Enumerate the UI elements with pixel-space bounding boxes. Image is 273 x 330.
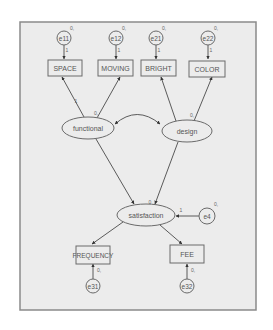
path-label: 0, (191, 267, 195, 273)
path-label: 1 (180, 207, 183, 213)
error-label: e12 (111, 35, 122, 42)
observed-color[interactable]: COLOR (189, 61, 225, 77)
path-label: 1 (210, 47, 213, 53)
observed-space[interactable]: SPACE (48, 60, 82, 76)
variance-label: 0, (214, 201, 218, 207)
latent-label: satisfaction (128, 212, 163, 219)
latent-label: functional (73, 125, 103, 132)
observed-label: BRIGHT (145, 65, 172, 72)
observed-label: FEE (180, 251, 194, 258)
path-label: 1 (66, 47, 69, 53)
variance-label: 0, (162, 25, 166, 31)
sem-path-diagram: e11 0, 1 e12 0, 1 e21 0, 1 e22 0, 1 SPAC… (0, 0, 273, 330)
error-label: e11 (59, 35, 70, 42)
observed-label: MOVING (101, 65, 129, 72)
error-label: e31 (88, 283, 99, 290)
latent-intercept-label: 0 (149, 199, 152, 205)
path-label: 1 (118, 47, 121, 53)
path-label-functional-space: 1 (75, 98, 78, 104)
observed-label: FREQUENCY (73, 252, 114, 260)
observed-moving[interactable]: MOVING (98, 60, 133, 76)
variance-label: 0, (122, 25, 126, 31)
latent-label: design (177, 128, 198, 136)
variance-label: 0, (70, 25, 74, 31)
error-label: e22 (203, 35, 214, 42)
observed-fee[interactable]: FEE (170, 245, 204, 263)
observed-label: COLOR (195, 66, 220, 73)
observed-bright[interactable]: BRIGHT (141, 60, 176, 76)
variance-label: 0, (214, 25, 218, 31)
error-label: e21 (151, 35, 162, 42)
path-label: 0, (97, 267, 101, 273)
observed-label: SPACE (53, 65, 77, 72)
error-label: e4 (203, 213, 211, 220)
latent-variance-label: 0, (94, 110, 98, 116)
error-label: e32 (182, 283, 193, 290)
path-label: 1 (158, 47, 161, 53)
latent-variance-label: 0, (190, 112, 194, 118)
observed-frequency[interactable]: FREQUENCY (73, 246, 114, 264)
